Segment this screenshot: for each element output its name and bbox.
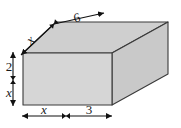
box-diagram: x 6 2 x x 3 bbox=[0, 0, 181, 128]
height-label-x: x bbox=[5, 85, 12, 100]
height-label-2: 2 bbox=[6, 59, 13, 74]
box-front-face bbox=[23, 53, 112, 105]
width-label-x: x bbox=[40, 102, 47, 117]
box-solid bbox=[23, 22, 168, 105]
dimension-height-left: 2 x bbox=[5, 52, 13, 106]
figure-container: x 6 2 x x 3 bbox=[0, 0, 181, 128]
width-label-3: 3 bbox=[86, 102, 93, 117]
